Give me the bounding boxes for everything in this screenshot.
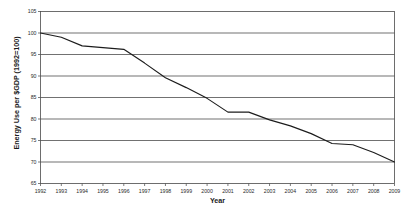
x-tick-label: 2001 bbox=[222, 188, 234, 194]
x-tick-label: 2008 bbox=[368, 188, 380, 194]
x-tick-label: 1993 bbox=[56, 188, 68, 194]
y-axis-tick-labels: 65707580859095100105 bbox=[28, 8, 37, 186]
x-tick-label: 2003 bbox=[264, 188, 276, 194]
y-tick-label: 70 bbox=[31, 159, 37, 165]
x-tick-label: 1992 bbox=[35, 188, 47, 194]
x-tick-label: 1999 bbox=[180, 188, 192, 194]
x-tick-label: 1994 bbox=[76, 188, 88, 194]
y-tick-label: 100 bbox=[28, 30, 37, 36]
x-tick-label: 2007 bbox=[347, 188, 359, 194]
x-tick-label: 2005 bbox=[305, 188, 317, 194]
x-axis-tick-labels: 1992199319941995199619971998199920002001… bbox=[35, 188, 401, 194]
x-tick-label: 2009 bbox=[389, 188, 401, 194]
x-tick-label: 1997 bbox=[139, 188, 151, 194]
x-tick-label: 2002 bbox=[243, 188, 255, 194]
x-tick-label: 2000 bbox=[201, 188, 213, 194]
gridlines bbox=[41, 33, 395, 162]
y-tick-label: 105 bbox=[28, 8, 37, 14]
x-tick-label: 1995 bbox=[97, 188, 109, 194]
x-tick-label: 2004 bbox=[285, 188, 297, 194]
y-tick-label: 95 bbox=[31, 51, 37, 57]
y-tick-label: 75 bbox=[31, 137, 37, 143]
x-tick-label: 2006 bbox=[326, 188, 338, 194]
y-tick-label: 85 bbox=[31, 94, 37, 100]
y-tick-label: 80 bbox=[31, 116, 37, 122]
y-tick-label: 90 bbox=[31, 73, 37, 79]
x-tick-label: 1996 bbox=[118, 188, 130, 194]
y-tick-label: 65 bbox=[31, 180, 37, 186]
x-tick-label: 1998 bbox=[160, 188, 172, 194]
chart-figure: Energy Use per $GDP (1992=100) Year 6570… bbox=[0, 0, 405, 209]
line-chart-plot: 65707580859095100105 1992199319941995199… bbox=[0, 0, 405, 209]
